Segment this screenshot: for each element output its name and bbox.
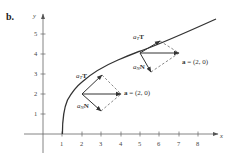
- y-tick-label: 1: [34, 111, 37, 118]
- tangential-label: aTT: [133, 34, 144, 41]
- y-tick-label: 2: [34, 91, 37, 98]
- part-label: b.: [6, 12, 14, 22]
- axes: [24, 14, 218, 153]
- tangential-component-vector: [140, 41, 160, 53]
- acceleration-label: a = (2, 0): [182, 59, 208, 66]
- diagram-canvas: [0, 0, 230, 159]
- dashed-guide: [102, 75, 121, 94]
- acceleration-label: a = (2, 0): [124, 90, 150, 97]
- x-tick-label: 5: [138, 141, 141, 148]
- y-tick-label: 3: [34, 71, 37, 78]
- x-tick-label: 7: [177, 141, 180, 148]
- normal-label: aNN: [77, 103, 89, 110]
- x-tick-label: 8: [196, 141, 199, 148]
- y-tick-label: 5: [34, 31, 37, 38]
- normal-label: aNN: [133, 64, 145, 71]
- dashed-guide: [101, 94, 121, 111]
- x-tick-label: 4: [119, 141, 122, 148]
- x-tick-label: 3: [99, 141, 102, 148]
- y-axis-label: y: [33, 13, 36, 20]
- x-tick-label: 6: [157, 141, 160, 148]
- vector-group-upper: [140, 41, 179, 72]
- y-tick-label: 4: [34, 51, 37, 58]
- x-axis-label: x: [220, 133, 223, 140]
- x-tick-label: 1: [60, 141, 63, 148]
- tangential-label: aTT: [76, 73, 87, 80]
- dashed-guide: [151, 53, 179, 72]
- x-tick-label: 2: [80, 141, 83, 148]
